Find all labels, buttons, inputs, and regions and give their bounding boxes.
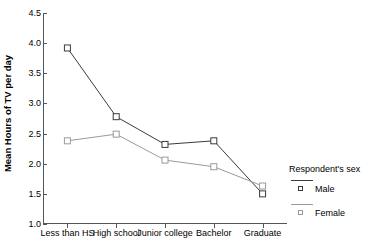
y-tick-mark bbox=[43, 73, 47, 74]
data-point-marker bbox=[113, 131, 119, 137]
series-male bbox=[64, 45, 265, 197]
legend-entry-male[interactable]: Male bbox=[289, 177, 368, 201]
legend-line-swatch bbox=[291, 204, 313, 205]
y-tick-mark bbox=[43, 134, 47, 135]
series-line bbox=[67, 48, 262, 194]
legend: Respondent's sex MaleFemale bbox=[289, 164, 368, 225]
legend-line-swatch bbox=[291, 180, 313, 181]
legend-square-marker bbox=[298, 186, 303, 191]
data-point-marker bbox=[211, 138, 217, 144]
data-point-marker bbox=[260, 191, 266, 197]
legend-entry-label: Female bbox=[315, 208, 345, 218]
legend-square-marker bbox=[298, 210, 303, 215]
data-point-marker bbox=[211, 164, 217, 170]
y-tick-mark bbox=[43, 13, 47, 14]
y-tick-mark bbox=[43, 224, 47, 225]
legend-entry-label: Male bbox=[315, 184, 335, 194]
y-tick-mark bbox=[43, 43, 47, 44]
legend-entry-female[interactable]: Female bbox=[289, 201, 368, 225]
data-point-marker bbox=[162, 157, 168, 163]
legend-entries: MaleFemale bbox=[289, 177, 368, 225]
data-point-marker bbox=[162, 141, 168, 147]
y-tick-mark bbox=[43, 164, 47, 165]
chart-container: Mean Hours of TV per day 1.01.52.02.53.0… bbox=[0, 0, 368, 248]
data-point-marker bbox=[113, 114, 119, 120]
data-point-marker bbox=[260, 183, 266, 189]
data-point-marker bbox=[64, 138, 70, 144]
series-female bbox=[64, 131, 265, 189]
data-point-marker bbox=[64, 45, 70, 51]
y-tick-mark bbox=[43, 194, 47, 195]
y-tick-mark bbox=[43, 103, 47, 104]
legend-title: Respondent's sex bbox=[289, 164, 368, 174]
